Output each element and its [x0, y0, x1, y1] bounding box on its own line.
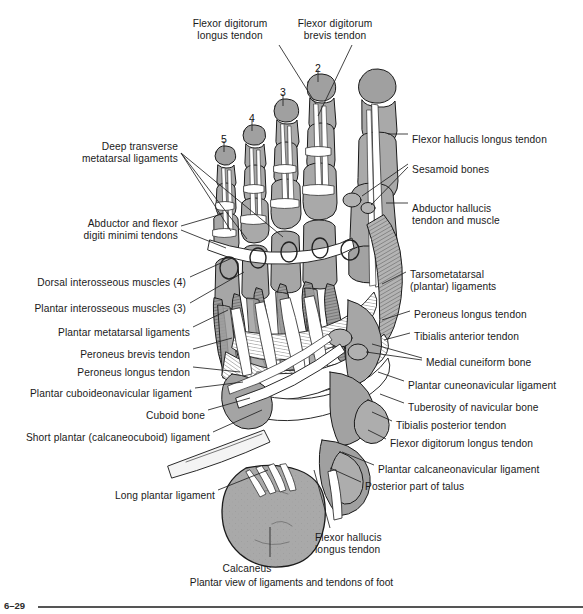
label-peroneus-longus-tendon-left: Peroneus longus tendon — [77, 367, 190, 379]
figure-number: 6–29 — [4, 600, 25, 611]
figure-caption: Plantar view of ligaments and tendons of… — [0, 577, 583, 588]
label-long-plantar-ligament: Long plantar ligament — [115, 490, 215, 502]
label-short-plantar-calcaneocuboid-ligament: Short plantar (calcaneocuboid) ligament — [26, 432, 210, 444]
label-peroneus-longus-tendon-right: Peroneus longus tendon — [414, 309, 527, 321]
footer-rule — [38, 606, 583, 608]
label-tarsometatarsal-plantar-ligaments: Tarsometatarsal (plantar) ligaments — [410, 269, 496, 294]
label-plantar-interosseous-muscles: Plantar interosseous muscles (3) — [34, 303, 186, 315]
label-medial-cuneiform-bone: Medial cuneiform bone — [426, 357, 531, 369]
label-calcaneus: Calcaneus — [157, 563, 337, 575]
label-flexor-digitorum-longus-tendon-right: Flexor digitorum longus tendon — [390, 438, 533, 450]
label-plantar-cuneonavicular-ligament: Plantar cuneonavicular ligament — [408, 380, 556, 392]
label-tibialis-anterior-tendon: Tibialis anterior tendon — [414, 331, 519, 343]
label-flexor-hallucis-longus-tendon-bottom: Flexor hallucis longus tendon — [315, 532, 382, 557]
label-peroneus-brevis-tendon: Peroneus brevis tendon — [80, 349, 190, 361]
label-plantar-calcaneonavicular-ligament: Plantar calcaneonavicular ligament — [378, 464, 539, 476]
label-posterior-part-of-talus: Posterior part of talus — [365, 481, 464, 493]
label-plantar-cuboideonavicular-ligament: Plantar cuboideonavicular ligament — [30, 388, 192, 400]
label-tibialis-posterior-tendon: Tibialis posterior tendon — [396, 420, 506, 432]
label-abductor-hallucis-tendon-and-muscle: Abductor hallucis tendon and muscle — [412, 203, 500, 228]
label-deep-transverse-metatarsal-ligaments: Deep transverse metatarsal ligaments — [82, 141, 178, 166]
label-dorsal-interosseous-muscles: Dorsal interosseous muscles (4) — [37, 277, 186, 289]
label-sesamoid-bones: Sesamoid bones — [412, 164, 489, 176]
anatomy-figure: Flexor digitorum longus tendonFlexor dig… — [0, 0, 583, 614]
label-cuboid-bone: Cuboid bone — [146, 410, 205, 422]
label-abductor-and-flexor-digiti-minimi-tendons: Abductor and flexor digiti minimi tendon… — [84, 218, 178, 243]
label-plantar-metatarsal-ligaments: Plantar metatarsal ligaments — [58, 327, 190, 339]
toe-number-5: 5 — [214, 133, 234, 145]
toe-number-2: 2 — [308, 62, 328, 74]
label-tuberosity-of-navicular-bone: Tuberosity of navicular bone — [408, 402, 538, 414]
label-flexor-hallucis-longus-tendon-right: Flexor hallucis longus tendon — [412, 134, 547, 146]
toe-number-4: 4 — [242, 112, 262, 124]
toe-number-3: 3 — [273, 86, 293, 98]
label-flexor-digitorum-brevis-tendon-top: Flexor digitorum brevis tendon — [245, 18, 425, 43]
